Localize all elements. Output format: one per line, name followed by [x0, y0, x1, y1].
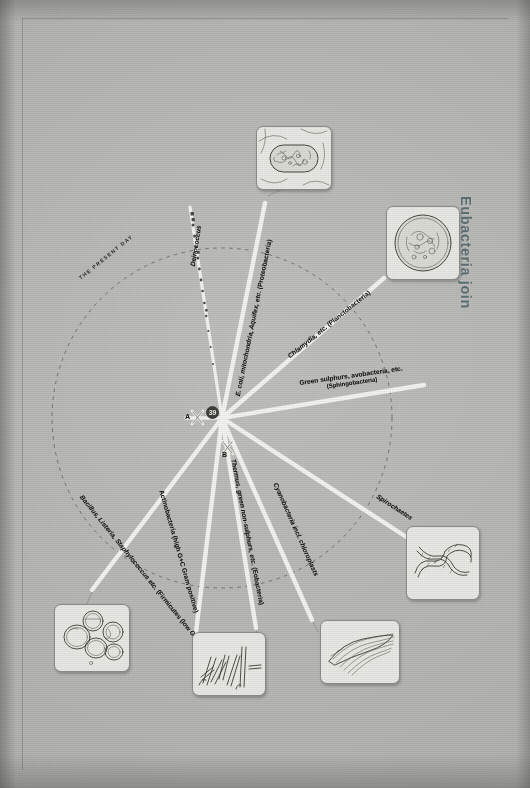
root-badge: 39 — [206, 406, 219, 419]
illustration-box-cocci-cluster — [54, 604, 130, 672]
illustration-box-round-cell — [386, 206, 460, 280]
node-label-a: A — [185, 412, 190, 421]
illustration-box-rod-cluster — [192, 632, 266, 696]
illustration-box-filamentous-cyanobacteria — [320, 620, 400, 684]
root-node — [219, 415, 225, 421]
scanned-page: THE PRESENT DAY A B 39 Deinococcus E. co… — [0, 0, 530, 788]
node-label-b: B — [222, 450, 227, 459]
illustration-box-rod-bacterium — [256, 126, 332, 190]
leader-cyano — [313, 622, 318, 632]
page-side-title: Eubacteria join — [458, 196, 474, 356]
illustration-box-spiral-bacteria — [406, 526, 480, 600]
